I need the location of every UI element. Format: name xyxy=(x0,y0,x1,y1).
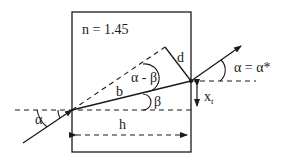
alpha-out-arc xyxy=(220,60,225,81)
refraction-diagram: n = 1.45 d α - β b β xt α α = α* h xyxy=(0,0,287,162)
xt-label: xt xyxy=(204,89,214,106)
refracted-ray-b xyxy=(72,81,191,110)
alpha-in-label: α xyxy=(35,112,43,127)
h-label: h xyxy=(119,117,126,132)
refractive-index-label: n = 1.45 xyxy=(82,22,128,37)
alpha-minus-beta-label: α - β xyxy=(131,70,157,85)
d-label: d xyxy=(177,50,184,65)
beta-arc xyxy=(143,94,151,110)
alpha-out-label: α = α* xyxy=(234,60,271,75)
alpha-in-arc xyxy=(58,110,60,118)
incident-ray xyxy=(23,110,72,143)
b-label: b xyxy=(116,84,123,99)
beta-label: β xyxy=(154,94,161,109)
